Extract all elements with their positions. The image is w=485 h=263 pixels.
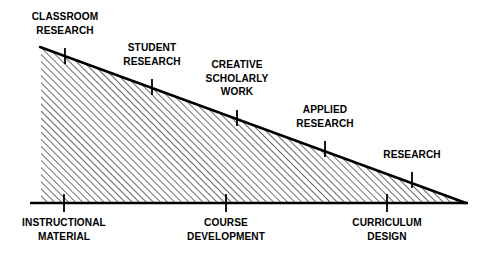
label-classroom-research: CLASSROOM RESEARCH (8, 10, 122, 37)
label-line: INSTRUCTIONAL (7, 216, 121, 230)
label-line: CURRICULUM (330, 216, 444, 230)
label-line: STUDENT (95, 41, 209, 55)
label-line: MATERIAL (7, 230, 121, 244)
label-instructional-material: INSTRUCTIONAL MATERIAL (7, 216, 121, 243)
label-line: CLASSROOM (8, 10, 122, 24)
label-applied-research: APPLIED RESEARCH (268, 103, 382, 130)
label-line: SCHOLARLY (180, 72, 294, 86)
label-line: RESEARCH (355, 148, 469, 162)
label-line: RESEARCH (268, 117, 382, 131)
label-creative-scholarly-work: CREATIVE SCHOLARLY WORK (180, 58, 294, 99)
label-line: WORK (180, 85, 294, 99)
label-line: COURSE (169, 216, 283, 230)
label-line: RESEARCH (8, 24, 122, 38)
label-line: APPLIED (268, 103, 382, 117)
label-research: RESEARCH (355, 148, 469, 162)
label-course-development: COURSE DEVELOPMENT (169, 216, 283, 243)
label-line: DEVELOPMENT (169, 230, 283, 244)
label-curriculum-design: CURRICULUM DESIGN (330, 216, 444, 243)
figure-canvas: CLASSROOM RESEARCH STUDENT RESEARCH CREA… (0, 0, 485, 263)
label-line: CREATIVE (180, 58, 294, 72)
label-line: DESIGN (330, 230, 444, 244)
